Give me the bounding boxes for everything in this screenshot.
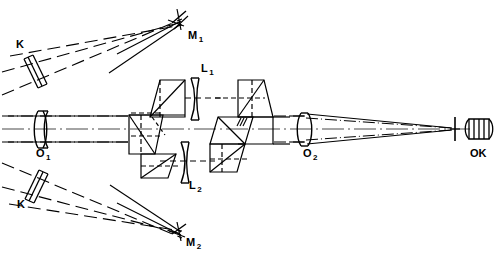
lens-l2 [181, 142, 189, 183]
prism-right-body [273, 117, 290, 144]
prism-lower-left [129, 115, 180, 178]
label-k-lower: K [17, 199, 26, 213]
label-eyepiece-ok: OK [470, 148, 488, 162]
label-lens-l1: L1 [201, 63, 214, 77]
optical-system-svg [0, 0, 499, 259]
prism-cement-hatch [237, 118, 247, 126]
lens-l1 [191, 78, 199, 120]
beam-upper-oblique-solid [109, 21, 181, 73]
optical-diagram-canvas: K M1 L1 O1 O2 OK L2 K M2 [0, 0, 499, 259]
prism-left-body [129, 115, 185, 135]
label-objective-o1: O1 [36, 148, 51, 162]
mirror-m2 [169, 222, 186, 241]
label-k-upper: K [16, 39, 25, 53]
label-lens-l2: L2 [189, 180, 202, 194]
reticle-bar [450, 117, 460, 141]
prism-upper-right [215, 80, 273, 144]
beam-lower-oblique-solid [110, 185, 181, 235]
eyepiece-ok [465, 119, 493, 139]
label-mirror-m2: M2 [186, 237, 201, 251]
label-objective-o2: O2 [303, 148, 318, 162]
prism-upper-left [131, 80, 185, 117]
label-mirror-m1: M1 [188, 30, 203, 44]
